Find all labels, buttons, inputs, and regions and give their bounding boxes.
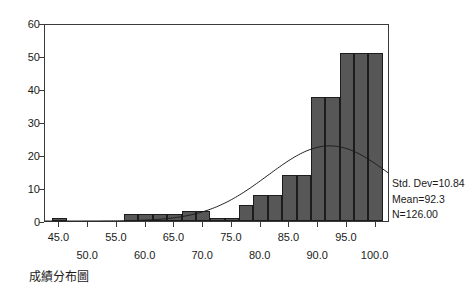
y-tick-label-50: 50 xyxy=(14,52,40,63)
x-tick-mark xyxy=(288,222,289,227)
x-tick-mark xyxy=(317,222,318,227)
histogram-bar xyxy=(297,175,311,221)
histogram-bar xyxy=(196,211,210,221)
x-tick-mark xyxy=(58,222,59,227)
x-tick-label: 75.0 xyxy=(220,232,241,243)
x-tick-mark xyxy=(231,222,232,227)
x-tick-mark xyxy=(173,222,174,227)
x-tick-label: 100.0 xyxy=(361,250,389,261)
y-tick-label-10: 10 xyxy=(14,184,40,195)
x-tick-label: 55.0 xyxy=(105,232,126,243)
histogram-bar xyxy=(340,53,354,221)
x-tick-label: 60.0 xyxy=(134,250,155,261)
x-tick-label: 80.0 xyxy=(249,250,270,261)
x-tick-mark xyxy=(375,222,376,227)
histogram-bar xyxy=(253,195,267,221)
x-tick-label: 65.0 xyxy=(163,232,184,243)
histogram-bar xyxy=(52,218,66,221)
histogram-bar xyxy=(239,205,253,222)
histogram-bar xyxy=(138,214,152,221)
x-tick-mark xyxy=(260,222,261,227)
histogram-bar xyxy=(167,214,181,221)
y-tick-label-60: 60 xyxy=(14,19,40,30)
histogram-bar xyxy=(325,97,339,221)
x-tick-label: 50.0 xyxy=(76,250,97,261)
y-tick-label-30: 30 xyxy=(14,118,40,129)
x-tick-label: 70.0 xyxy=(191,250,212,261)
stat-mean: Mean=92.3 xyxy=(392,192,462,208)
x-tick-label: 95.0 xyxy=(335,232,356,243)
plot-area xyxy=(44,24,389,222)
histogram-bar xyxy=(311,97,325,221)
histogram-bar xyxy=(210,218,224,221)
histogram-bar xyxy=(368,53,382,221)
y-tick-label-40: 40 xyxy=(14,85,40,96)
y-tick-label-0: 0 xyxy=(14,217,40,228)
histogram-bar xyxy=(282,175,296,221)
x-tick-label: 45.0 xyxy=(48,232,69,243)
x-tick-mark xyxy=(145,222,146,227)
statistics-annotation: Std. Dev=10.84 Mean=92.3 N=126.00 xyxy=(392,176,462,223)
histogram-bar xyxy=(225,218,239,221)
y-axis: 60 50 40 30 20 10 0 xyxy=(8,0,40,304)
y-tick-label-20: 20 xyxy=(14,151,40,162)
stat-std-dev: Std. Dev=10.84 xyxy=(392,176,462,192)
histogram-bar xyxy=(268,195,282,221)
histogram-bar xyxy=(182,211,196,221)
histogram-bar xyxy=(124,214,138,221)
x-tick-label: 85.0 xyxy=(278,232,299,243)
x-tick-mark xyxy=(87,222,88,227)
chart-caption: 成績分布圖 xyxy=(29,270,89,284)
histogram-bar xyxy=(354,53,368,221)
x-tick-mark xyxy=(202,222,203,227)
x-tick-mark xyxy=(116,222,117,227)
x-tick-mark xyxy=(346,222,347,227)
y-tick-mark-0 xyxy=(39,222,44,223)
stat-n: N=126.00 xyxy=(392,207,462,223)
histogram-bar xyxy=(153,214,167,221)
x-tick-label: 90.0 xyxy=(306,250,327,261)
